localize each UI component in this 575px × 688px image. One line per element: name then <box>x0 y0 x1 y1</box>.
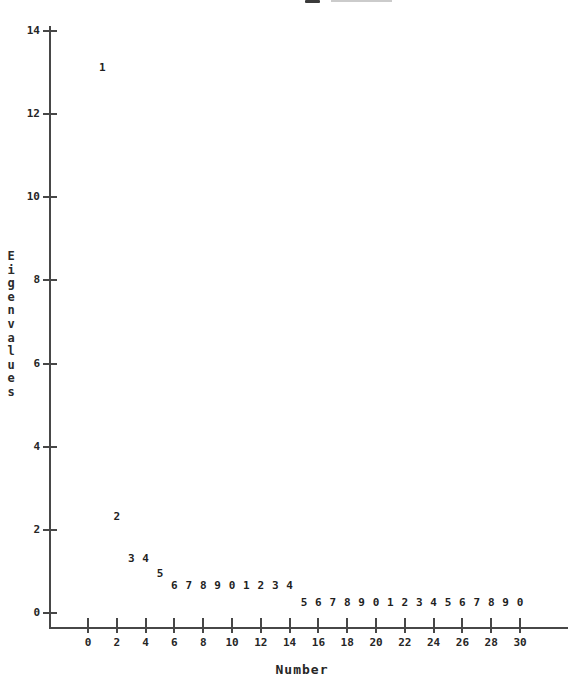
data-point-label: 0 <box>370 597 382 609</box>
data-point-label: 2 <box>111 511 123 523</box>
data-point-label: 1 <box>384 597 396 609</box>
data-point-label: 3 <box>125 553 137 565</box>
data-point-label: 3 <box>269 580 281 592</box>
x-tick-label: 28 <box>478 637 504 649</box>
data-point-label: 0 <box>226 580 238 592</box>
data-point-label: 6 <box>312 597 324 609</box>
data-point-label: 2 <box>255 580 267 592</box>
x-axis-title: Number <box>240 662 364 677</box>
x-tick <box>461 618 463 633</box>
y-tick <box>43 446 57 448</box>
data-point-label: 6 <box>168 580 180 592</box>
y-axis-title-letter: n <box>3 304 19 318</box>
x-tick-label: 14 <box>277 637 303 649</box>
x-tick <box>173 618 175 633</box>
x-tick-label: 22 <box>392 637 418 649</box>
x-tick <box>116 618 118 633</box>
y-tick <box>43 529 57 531</box>
y-tick <box>43 612 57 614</box>
scree-plot-page: Eigenvalues 0246810121402468101214161820… <box>0 0 575 688</box>
y-tick-label: 0 <box>12 607 40 619</box>
x-tick-label: 16 <box>305 637 331 649</box>
x-tick-label: 30 <box>507 637 533 649</box>
data-point-label: 4 <box>140 553 152 565</box>
x-tick <box>375 618 377 633</box>
x-tick-label: 2 <box>104 637 130 649</box>
y-axis-title-letter: e <box>3 291 19 305</box>
x-tick-label: 12 <box>248 637 274 649</box>
y-tick <box>43 279 57 281</box>
x-tick-label: 0 <box>75 637 101 649</box>
data-point-label: 5 <box>154 568 166 580</box>
x-tick <box>404 618 406 633</box>
y-axis-title: Eigenvalues <box>3 250 19 400</box>
data-point-label: 0 <box>514 597 526 609</box>
y-tick <box>43 113 57 115</box>
x-tick <box>317 618 319 633</box>
y-axis-title-letter: v <box>3 318 19 332</box>
data-point-label: 7 <box>471 597 483 609</box>
data-point-label: 1 <box>96 62 108 74</box>
y-tick <box>43 30 57 32</box>
data-point-label: 9 <box>500 597 512 609</box>
x-tick <box>519 618 521 633</box>
y-tick-label: 4 <box>12 441 40 453</box>
data-point-label: 8 <box>197 580 209 592</box>
x-tick <box>202 618 204 633</box>
x-tick <box>346 618 348 633</box>
x-tick-label: 24 <box>421 637 447 649</box>
data-point-label: 7 <box>183 580 195 592</box>
data-point-label: 5 <box>298 597 310 609</box>
x-tick-label: 4 <box>133 637 159 649</box>
data-point-label: 3 <box>413 597 425 609</box>
x-tick <box>289 618 291 633</box>
x-tick <box>145 618 147 633</box>
data-point-label: 6 <box>456 597 468 609</box>
y-tick-label: 8 <box>12 274 40 286</box>
data-point-label: 9 <box>356 597 368 609</box>
y-tick-label: 2 <box>12 524 40 536</box>
y-tick <box>43 363 57 365</box>
x-tick-label: 8 <box>190 637 216 649</box>
x-tick-label: 10 <box>219 637 245 649</box>
y-tick-label: 12 <box>12 108 40 120</box>
x-tick-label: 20 <box>363 637 389 649</box>
y-axis-title-letter: e <box>3 372 19 386</box>
y-tick-label: 10 <box>12 191 40 203</box>
y-axis-title-letter: a <box>3 332 19 346</box>
cropped-title-fragment <box>305 0 320 3</box>
y-axis-title-letter: E <box>3 250 19 264</box>
x-tick <box>231 618 233 633</box>
data-point-label: 1 <box>240 580 252 592</box>
y-tick-label: 6 <box>12 358 40 370</box>
data-point-label: 5 <box>442 597 454 609</box>
y-axis-title-letter: s <box>3 386 19 400</box>
x-tick-label: 26 <box>449 637 475 649</box>
data-point-label: 2 <box>399 597 411 609</box>
x-tick <box>87 618 89 633</box>
x-tick <box>260 618 262 633</box>
data-point-label: 9 <box>212 580 224 592</box>
y-tick-label: 14 <box>12 25 40 37</box>
y-tick <box>43 196 57 198</box>
y-axis-line <box>49 26 51 629</box>
data-point-label: 7 <box>327 597 339 609</box>
data-point-label: 8 <box>341 597 353 609</box>
data-point-label: 4 <box>284 580 296 592</box>
x-tick-label: 6 <box>161 637 187 649</box>
x-tick <box>433 618 435 633</box>
x-tick-label: 18 <box>334 637 360 649</box>
scan-artifact-line <box>331 0 392 2</box>
data-point-label: 8 <box>485 597 497 609</box>
data-point-label: 4 <box>428 597 440 609</box>
x-tick <box>490 618 492 633</box>
